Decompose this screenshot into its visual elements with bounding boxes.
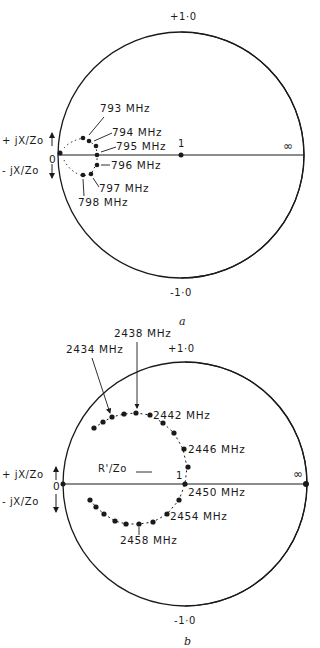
label-796: 796 MHz (111, 159, 161, 171)
caption-a: a (179, 315, 186, 328)
reactance-arc-positive-b (185, 362, 307, 484)
label-plus-one-a: +1·0 (170, 11, 197, 22)
label-zero-b: 0 (53, 480, 60, 492)
label-2446: 2446 MHz (188, 443, 245, 455)
label-797: 797 MHz (99, 182, 149, 194)
point-795 (94, 144, 99, 149)
point-795b (95, 153, 100, 158)
label-zero-a: 0 (49, 153, 56, 165)
leader-2434 (92, 358, 110, 413)
leader-794 (94, 133, 112, 141)
label-resistance-b: R'/Zo (98, 463, 127, 474)
label-793: 793 MHz (100, 102, 150, 114)
label-infinity-b: ∞ (293, 467, 304, 481)
point-796 (95, 163, 100, 168)
axis-label-positive-b: + jX/Zo (2, 469, 44, 480)
point-zero-b (61, 482, 66, 487)
smith-chart-figure: +1·0 -1·0 0 1 ∞ + jX/Zo - jX/Zo 793 MHz … (0, 0, 320, 648)
label-infinity-a: ∞ (283, 139, 294, 153)
smith-chart-b: +1·0 -1·0 0 1 ∞ R'/Zo + jX/Zo - jX/Zo (2, 327, 309, 648)
leader-793 (89, 117, 104, 135)
label-798: 798 MHz (78, 196, 128, 208)
point-zero-a (58, 151, 63, 156)
label-2438: 2438 MHz (114, 327, 171, 339)
label-2434: 2434 MHz (66, 343, 123, 355)
label-2454: 2454 MHz (170, 510, 227, 522)
reactance-arc-positive-a (181, 32, 304, 155)
point-797 (89, 172, 94, 177)
label-2458: 2458 MHz (120, 534, 177, 546)
point-infinity-b (303, 481, 309, 487)
axis-label-negative-a: - jX/Zo (2, 165, 39, 176)
label-minus-one-b: -1·0 (174, 615, 196, 626)
point-one-a (179, 153, 184, 158)
label-2450: 2450 MHz (188, 486, 245, 498)
axis-label-positive-a: + jX/Zo (2, 135, 44, 146)
reactance-arc-negative-b (185, 484, 307, 606)
point-798 (81, 173, 86, 178)
leader-795 (101, 147, 116, 152)
label-2442: 2442 MHz (153, 409, 210, 421)
leader-798 (83, 179, 84, 196)
impedance-locus-a (64, 138, 97, 176)
caption-b: b (184, 635, 191, 648)
point-794 (87, 139, 92, 144)
label-795: 795 MHz (116, 140, 166, 152)
reactance-arc-negative-a (181, 155, 304, 278)
point-793 (81, 136, 86, 141)
label-minus-one-a: -1·0 (170, 287, 192, 298)
label-794: 794 MHz (112, 126, 162, 138)
label-plus-one-b: +1·0 (168, 343, 195, 354)
axis-label-negative-b: - jX/Zo (2, 496, 39, 507)
label-one-b: 1 (176, 470, 183, 481)
smith-chart-a: +1·0 -1·0 0 1 ∞ + jX/Zo - jX/Zo 793 MHz … (2, 11, 304, 328)
label-one-a: 1 (178, 138, 185, 149)
